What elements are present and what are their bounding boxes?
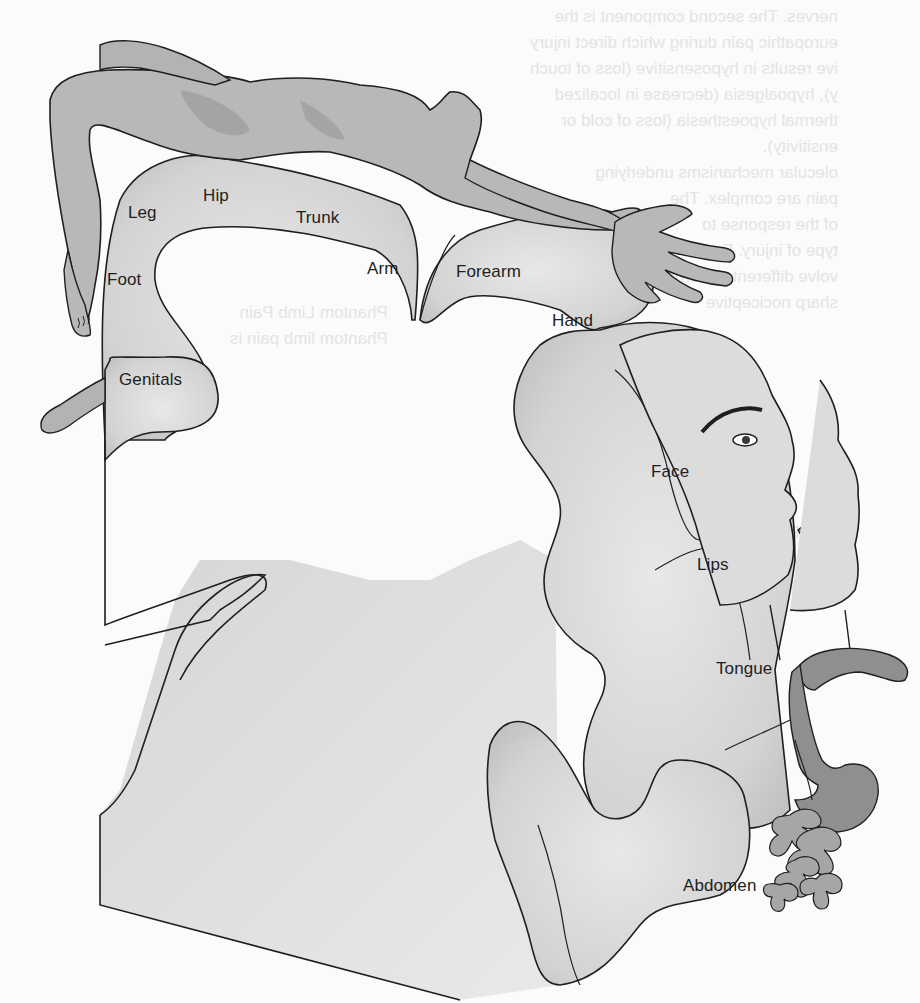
label-hip: Hip	[203, 186, 229, 206]
label-foot: Foot	[107, 270, 141, 290]
label-leg: Leg	[128, 203, 157, 223]
homunculus-tongue	[800, 648, 908, 690]
homunculus-hand	[612, 205, 735, 303]
label-abdomen: Abdomen	[683, 876, 756, 896]
homunculus-pupil	[742, 436, 750, 444]
homunculus-diagram	[0, 0, 920, 1003]
homunculus-genital-appendage	[41, 378, 105, 433]
label-hand: Hand	[552, 311, 593, 331]
label-arm: Arm	[367, 259, 398, 279]
label-lips: Lips	[697, 555, 729, 575]
homunculus-face-profile	[790, 380, 859, 611]
label-face: Face	[651, 462, 689, 482]
label-trunk: Trunk	[296, 208, 339, 228]
label-genitals: Genitals	[119, 370, 182, 390]
homunculus-esophagus-stomach	[789, 665, 878, 832]
label-tongue: Tongue	[716, 659, 772, 679]
label-forearm: Forearm	[456, 262, 521, 282]
